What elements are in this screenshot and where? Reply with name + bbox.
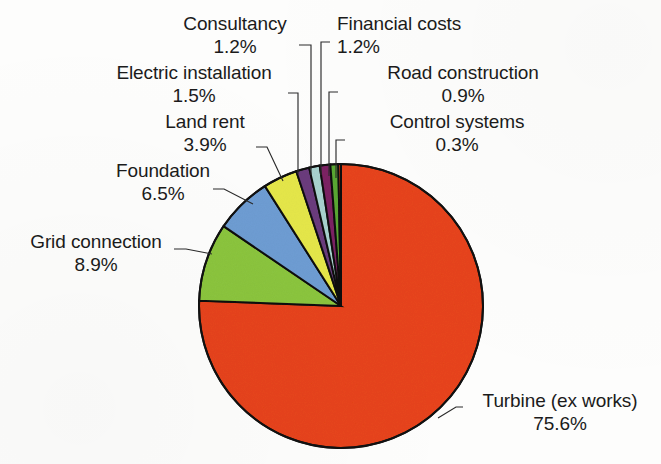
slice-label-electric-installation-name: Electric installation xyxy=(80,61,308,84)
slice-label-foundation-name: Foundation xyxy=(73,159,253,182)
leader-line-turbine xyxy=(438,407,463,418)
pie-chart-figure: Consultancy 1.2% Electric installation 1… xyxy=(0,0,661,464)
pie-slices xyxy=(199,164,483,448)
slice-label-turbine-ex-works: Turbine (ex works) 75.6% xyxy=(462,389,658,435)
slice-label-consultancy-name: Consultancy xyxy=(155,12,315,35)
slice-label-control-systems-pct: 0.3% xyxy=(352,133,562,156)
slice-label-road-construction-pct: 0.9% xyxy=(348,84,578,107)
slice-label-consultancy: Consultancy 1.2% xyxy=(155,12,315,58)
slice-label-grid-connection: Grid connection 8.9% xyxy=(6,230,186,276)
slice-label-grid-connection-pct: 8.9% xyxy=(6,253,186,276)
slice-label-grid-connection-name: Grid connection xyxy=(6,230,186,253)
slice-label-land-rent: Land rent 3.9% xyxy=(115,110,295,156)
slice-label-electric-installation: Electric installation 1.5% xyxy=(80,61,308,107)
slice-label-electric-installation-pct: 1.5% xyxy=(80,84,308,107)
slice-label-foundation-pct: 6.5% xyxy=(73,182,253,205)
slice-label-control-systems: Control systems 0.3% xyxy=(352,110,562,156)
slice-label-road-construction-name: Road construction xyxy=(348,61,578,84)
slice-label-consultancy-pct: 1.2% xyxy=(155,35,315,58)
slice-label-turbine-ex-works-pct: 75.6% xyxy=(462,412,658,435)
slice-label-turbine-ex-works-name: Turbine (ex works) xyxy=(462,389,658,412)
slice-label-foundation: Foundation 6.5% xyxy=(73,159,253,205)
slice-label-control-systems-name: Control systems xyxy=(352,110,562,133)
slice-label-financial-costs-name: Financial costs xyxy=(337,12,507,35)
slice-label-land-rent-name: Land rent xyxy=(115,110,295,133)
slice-label-financial-costs: Financial costs 1.2% xyxy=(337,12,507,58)
slice-label-land-rent-pct: 3.9% xyxy=(115,133,295,156)
slice-label-financial-costs-pct: 1.2% xyxy=(337,35,507,58)
slice-label-road-construction: Road construction 0.9% xyxy=(348,61,578,107)
